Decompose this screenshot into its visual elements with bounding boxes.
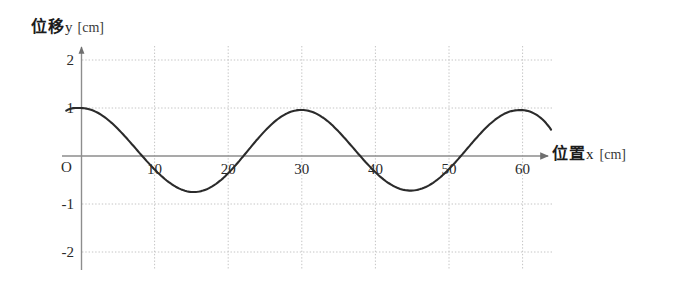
origin-label: O <box>61 160 72 175</box>
grid-lines-vertical <box>155 46 523 270</box>
plot-canvas <box>0 0 674 282</box>
y-axis-title-name: 位移 <box>31 19 64 35</box>
y-axis-title: 位移 y [cm] <box>31 19 104 35</box>
wave-graph-figure: 位移 y [cm] 位置 x [cm] O 10 20 30 40 50 60 … <box>0 0 674 282</box>
y-tick-label-neg2: -2 <box>48 245 74 260</box>
x-tick-label-20: 20 <box>221 162 236 177</box>
x-axis-title: 位置 x [cm] <box>552 146 626 162</box>
y-tick-label-1: 1 <box>58 101 74 116</box>
x-tick-label-50: 50 <box>442 162 457 177</box>
x-axis-title-symbol: x <box>586 147 594 162</box>
y-tick-label-2: 2 <box>58 53 74 68</box>
x-tick-label-30: 30 <box>294 162 309 177</box>
y-tick-label-neg1: -1 <box>48 197 74 212</box>
wave-curve <box>66 108 551 192</box>
x-tick-label-10: 10 <box>147 162 162 177</box>
x-axis-title-unit: [cm] <box>600 148 626 162</box>
x-axis-title-name: 位置 <box>552 146 585 162</box>
y-axis-title-unit: [cm] <box>78 21 104 35</box>
y-axis-title-symbol: y <box>65 20 73 35</box>
x-tick-label-40: 40 <box>368 162 383 177</box>
x-tick-label-60: 60 <box>515 162 530 177</box>
